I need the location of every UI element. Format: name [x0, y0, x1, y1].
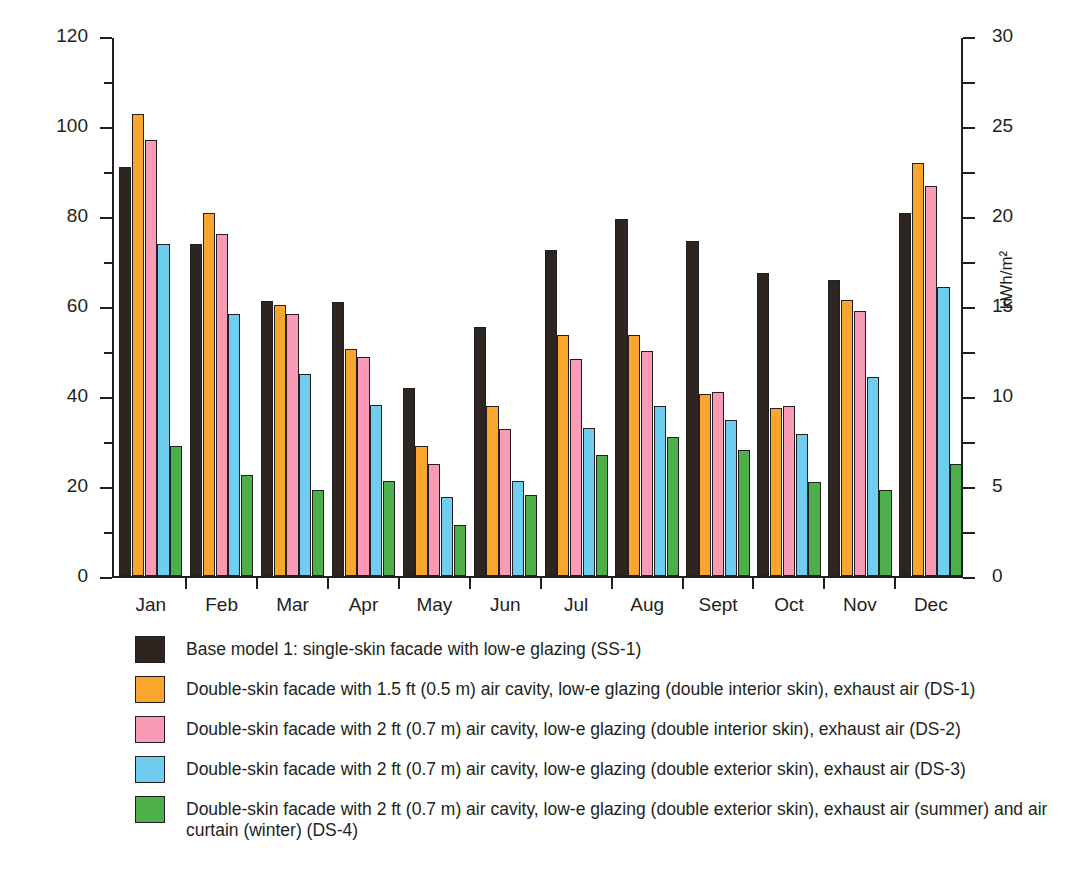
bar-ds-2-jul — [570, 359, 582, 576]
bar-ds-4-aug — [667, 437, 679, 576]
legend-swatch-ss-1 — [135, 636, 165, 663]
bar-ds-4-mar — [312, 490, 324, 576]
bar-ds-3-jan — [157, 244, 169, 576]
x-separator-tick — [894, 578, 896, 589]
y-tick-left — [100, 127, 112, 129]
y-tick-label-left: 100 — [42, 115, 88, 137]
bar-ss-1-aug — [615, 219, 627, 576]
bar-ds-1-jun — [486, 406, 498, 576]
bar-ds-2-aug — [641, 351, 653, 576]
bar-group — [828, 38, 891, 576]
bar-group — [190, 38, 253, 576]
bar-ss-1-dec — [899, 213, 911, 576]
bar-ds-4-may — [454, 525, 466, 576]
legend-swatch-ds-4 — [135, 796, 165, 823]
bar-ds-2-sept — [712, 392, 724, 576]
y-tick-right — [963, 577, 975, 579]
bar-ds-2-dec — [925, 186, 937, 576]
bar-ss-1-nov — [828, 280, 840, 576]
bar-ds-1-feb — [203, 213, 215, 576]
bar-group — [545, 38, 608, 576]
y-tick-label-left: 20 — [42, 475, 88, 497]
bar-ds-3-apr — [370, 405, 382, 576]
y-minor-tick-left — [104, 352, 112, 354]
bar-ds-4-jan — [170, 446, 182, 576]
x-separator-tick — [185, 578, 187, 589]
y-tick-label-right: 10 — [992, 385, 1038, 407]
bar-ss-1-jan — [119, 167, 131, 576]
legend-label-ds-2: Double-skin facade with 2 ft (0.7 m) air… — [186, 716, 961, 740]
bar-ss-1-sept — [686, 241, 698, 576]
y-minor-tick-left — [104, 262, 112, 264]
y-minor-tick-left — [104, 532, 112, 534]
legend-item-ds-1[interactable]: Double-skin facade with 1.5 ft (0.5 m) a… — [135, 676, 1075, 703]
bar-ds-2-jan — [145, 140, 157, 576]
bar-ds-3-jul — [583, 428, 595, 577]
y-tick-label-left: 40 — [42, 385, 88, 407]
bar-ds-4-feb — [241, 475, 253, 576]
bar-ds-3-mar — [299, 374, 311, 576]
legend-item-ss-1[interactable]: Base model 1: single-skin facade with lo… — [135, 636, 1075, 663]
bar-ds-1-oct — [770, 408, 782, 576]
bar-ds-1-jul — [557, 335, 569, 576]
y-tick-label-right: 0 — [992, 565, 1038, 587]
bar-ds-4-oct — [808, 482, 820, 576]
bar-ds-4-sept — [738, 450, 750, 576]
legend-item-ds-2[interactable]: Double-skin facade with 2 ft (0.7 m) air… — [135, 716, 1075, 743]
y-tick-right — [963, 217, 975, 219]
bar-ds-2-oct — [783, 406, 795, 576]
y-axis-left-line — [112, 38, 114, 578]
bar-group — [119, 38, 182, 576]
bar-ds-3-dec — [937, 287, 949, 576]
bar-ss-1-jun — [474, 327, 486, 576]
y-tick-label-right: 20 — [992, 205, 1038, 227]
x-separator-tick — [611, 578, 613, 589]
y-tick-right — [963, 487, 975, 489]
x-separator-tick — [752, 578, 754, 589]
bar-group — [757, 38, 820, 576]
bar-ss-1-jul — [545, 250, 557, 576]
y-tick-right — [963, 307, 975, 309]
bar-ds-1-may — [415, 446, 427, 576]
y-minor-tick-left — [104, 82, 112, 84]
legend-item-ds-3[interactable]: Double-skin facade with 2 ft (0.7 m) air… — [135, 756, 1075, 783]
bar-ds-1-apr — [345, 349, 357, 576]
bar-ds-2-mar — [286, 314, 298, 576]
y-tick-left — [100, 487, 112, 489]
chart-legend: Base model 1: single-skin facade with lo… — [135, 636, 1075, 854]
y-tick-right — [963, 352, 975, 354]
legend-swatch-ds-3 — [135, 756, 165, 783]
bar-ds-3-sept — [725, 420, 737, 576]
bar-ds-1-aug — [628, 335, 640, 576]
legend-label-ds-3: Double-skin facade with 2 ft (0.7 m) air… — [186, 756, 966, 780]
bar-ds-2-nov — [854, 311, 866, 576]
y-tick-left — [100, 37, 112, 39]
bar-ds-1-dec — [912, 163, 924, 576]
y-tick-right — [963, 397, 975, 399]
legend-label-ds-4: Double-skin facade with 2 ft (0.7 m) air… — [186, 796, 1066, 841]
y-tick-left — [100, 577, 112, 579]
y-tick-left — [100, 397, 112, 399]
y-axis-right-title: kWh/m² — [997, 251, 1017, 310]
y-tick-right — [963, 127, 975, 129]
bar-ss-1-feb — [190, 244, 202, 576]
y-tick-right — [963, 532, 975, 534]
bar-ds-3-aug — [654, 406, 666, 576]
y-tick-left — [100, 217, 112, 219]
legend-item-ds-4[interactable]: Double-skin facade with 2 ft (0.7 m) air… — [135, 796, 1075, 841]
bar-ds-4-jul — [596, 455, 608, 576]
y-minor-tick-left — [104, 442, 112, 444]
bar-ds-1-nov — [841, 300, 853, 576]
x-separator-tick — [823, 578, 825, 589]
bar-ds-1-jan — [132, 114, 144, 576]
legend-swatch-ds-1 — [135, 676, 165, 703]
bar-ds-2-apr — [357, 357, 369, 576]
bar-ds-1-mar — [274, 305, 286, 576]
bar-ds-1-sept — [699, 394, 711, 576]
bar-ds-4-jun — [525, 495, 537, 576]
y-tick-label-right: 30 — [992, 25, 1038, 47]
y-tick-label-left: 0 — [42, 565, 88, 587]
y-tick-label-left: 80 — [42, 205, 88, 227]
bar-ds-2-jun — [499, 429, 511, 576]
bar-ds-4-nov — [879, 490, 891, 576]
